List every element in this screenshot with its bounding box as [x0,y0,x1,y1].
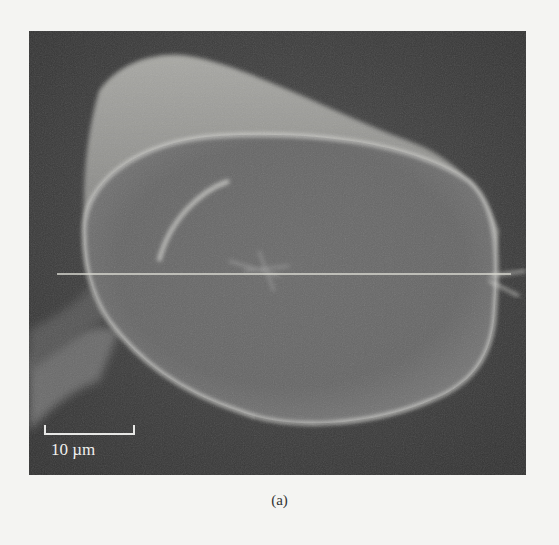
sem-micrograph: 10 µm [29,31,526,475]
fiber-cross-section-image [29,31,526,475]
figure-caption: (a) [0,492,559,509]
scale-bar-label: 10 µm [51,440,95,460]
scale-bar [44,425,135,435]
